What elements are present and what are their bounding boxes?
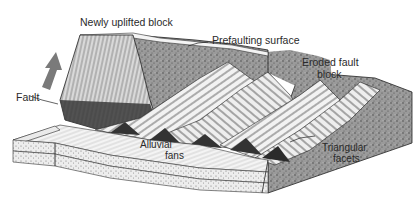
- label-fault: Fault: [16, 91, 39, 103]
- label-triangular-facets: Triangular: [322, 142, 367, 153]
- label-eroded-fault-block-2: block: [317, 68, 342, 80]
- label-eroded-fault-block: Eroded fault: [302, 56, 359, 68]
- label-newly-uplifted-block: Newly uplifted block: [80, 16, 174, 28]
- label-triangular-facets-2: facets: [333, 153, 360, 164]
- up-arrow-icon: [42, 52, 62, 90]
- label-prefaulting-surface: Prefaulting surface: [212, 34, 300, 46]
- label-alluvial-fans: Alluvial: [140, 139, 172, 150]
- label-alluvial-fans-2: fans: [165, 150, 184, 161]
- fault-block-diagram: Newly uplifted block Prefaulting surface…: [0, 0, 417, 220]
